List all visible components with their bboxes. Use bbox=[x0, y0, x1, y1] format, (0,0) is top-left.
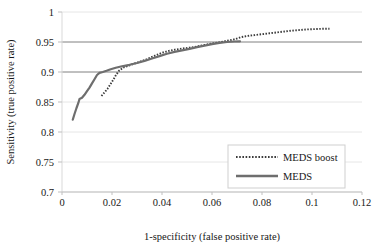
x-tick-label-3: 0.06 bbox=[203, 197, 221, 208]
y-tick-labels-group: 0.70.750.80.850.90.951 bbox=[36, 7, 54, 198]
x-tick-label-6: 0.12 bbox=[353, 197, 371, 208]
y-tick-label-2: 0.8 bbox=[41, 127, 54, 138]
x-tick-labels-group: 00.020.040.060.080.10.12 bbox=[59, 197, 371, 208]
x-axis-title: 1-specificity (false positive rate) bbox=[144, 231, 281, 243]
y-tick-label-5: 0.95 bbox=[36, 37, 54, 48]
x-tick-label-0: 0 bbox=[59, 197, 64, 208]
y-tick-label-1: 0.75 bbox=[36, 157, 54, 168]
legend[interactable]: MEDS boost MEDS bbox=[228, 145, 345, 188]
x-tick-label-5: 0.1 bbox=[305, 197, 318, 208]
x-tick-label-2: 0.04 bbox=[153, 197, 172, 208]
legend-label-meds-boost: MEDS boost bbox=[283, 152, 338, 163]
legend-label-meds: MEDS bbox=[283, 171, 312, 182]
y-tick-label-6: 1 bbox=[49, 7, 54, 18]
roc-chart-canvas: 00.020.040.060.080.10.12 0.70.750.80.850… bbox=[0, 0, 384, 247]
y-tick-label-0: 0.7 bbox=[41, 187, 54, 198]
y-axis-title: Sensitivity (true positive rate) bbox=[5, 39, 17, 165]
x-tick-label-1: 0.02 bbox=[103, 197, 121, 208]
y-tick-marks-group bbox=[58, 12, 62, 192]
y-tick-label-3: 0.85 bbox=[36, 97, 54, 108]
roc-chart: 00.020.040.060.080.10.12 0.70.750.80.850… bbox=[0, 0, 384, 247]
x-tick-label-4: 0.08 bbox=[253, 197, 271, 208]
y-tick-label-4: 0.9 bbox=[41, 67, 54, 78]
